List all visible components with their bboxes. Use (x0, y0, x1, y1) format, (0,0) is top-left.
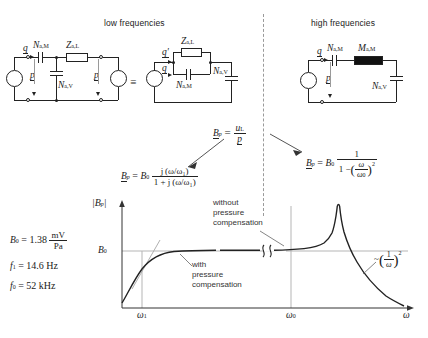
response-curve-peak (337, 205, 339, 207)
label-resistor-mid: Za,L (181, 36, 194, 46)
parameter-f0: f0 = 52 kHz (10, 280, 67, 291)
annotation-asymptote: ~(1ω)2 (374, 250, 402, 269)
label-resistor-left: Za,L (66, 40, 79, 50)
section-divider (263, 14, 264, 216)
annotation-with-compensation: with pressure compensation (192, 260, 242, 290)
arrow-p-right-circuit (328, 94, 332, 98)
y-axis-arrowhead (119, 200, 125, 207)
plot-ytick-b0: B0 (98, 244, 107, 255)
arrow-p-left (32, 92, 36, 96)
formula-high-frequency: Bp = B0 1 1 −(ωω0)2 (306, 149, 377, 179)
plot-xlabel: ω (403, 310, 410, 320)
parameter-list: B0 = 1.38 mV Pa f1 = 14.6 Hz f0 = 52 kHz (10, 230, 67, 291)
circuit-low-frequencies: q Na,M Za,L Na,V p p (6, 42, 126, 110)
arrow-p-right (96, 92, 100, 96)
plot-xtick-omega1: ω1 (137, 310, 147, 320)
equivalence-symbol: ≡ (130, 76, 136, 88)
annotation-without-compensation: without pressure compensation (213, 198, 263, 228)
label-q-prime: q' (162, 47, 169, 58)
frequency-response-plot: |Bp| B0 ω1 ω0 ω with pressure compensati… (108, 196, 428, 338)
arrow-q-prime (168, 60, 172, 64)
circuit-high-frequencies: q Na,M Ma,M Na,V p (300, 44, 410, 110)
response-curve-resonance-rise (274, 206, 337, 250)
leader-without-compensation (260, 231, 284, 246)
label-cap-shunt-right: Na,V (372, 81, 387, 91)
label-q-mid: q (162, 63, 167, 74)
parameter-f1: f1 = 14.6 Hz (10, 260, 67, 271)
label-cap-shunt-mid: Na,V (213, 66, 228, 76)
label-q-right: q (317, 46, 322, 57)
formula-low-frequency: Bp = B0 j (ω/ω₁) 1 + j (ω/ω₁) (121, 166, 198, 187)
label-q-left: q (23, 43, 28, 54)
label-cap-series-left: Na,M (33, 40, 49, 50)
arrow-q-right (324, 58, 328, 62)
circuit-equivalent: q' q Za,L Na,M Na,V (146, 44, 246, 110)
header-low-frequencies: low frequencies (104, 18, 165, 28)
label-cap-parallel-mid: Na,M (176, 80, 192, 90)
axis-break-squiggle-2 (270, 245, 272, 257)
label-cap-series-right: Na,M (327, 43, 343, 53)
plot-xtick-omega0: ω0 (286, 310, 296, 320)
leader-with-compensation (180, 254, 192, 266)
plot-ylabel: |Bp| (92, 197, 107, 208)
label-mass-right: Ma,M (358, 43, 375, 53)
axis-break-squiggle-1 (263, 245, 265, 257)
header-high-frequencies: high frequencies (311, 18, 375, 28)
arrow-q-mid (168, 73, 172, 77)
label-cap-shunt-left: Na,V (58, 80, 73, 90)
parameter-B0: B0 = 1.38 mV Pa (10, 230, 67, 251)
